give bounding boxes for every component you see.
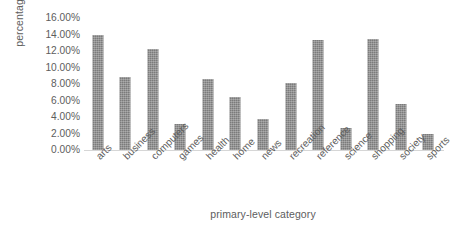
y-axis-tick-label: 0.00% [30, 145, 80, 155]
y-axis-tick-label: 16.00% [30, 13, 80, 23]
y-axis-tick-labels: 16.00%14.00%12.00%10.00%8.00%6.00%4.00%2… [30, 13, 80, 157]
y-axis-tick-label: 12.00% [30, 46, 80, 56]
bar-chart: percentage 16.00%14.00%12.00%10.00%8.00%… [0, 0, 463, 232]
bar [285, 83, 296, 150]
bar-slot [84, 18, 112, 150]
y-axis-tick-label: 10.00% [30, 63, 80, 73]
plot-area [84, 18, 442, 150]
bar-slot [194, 18, 222, 150]
bar [92, 35, 103, 150]
y-axis-tick-label: 14.00% [30, 30, 80, 40]
bar-slot [112, 18, 140, 150]
bar-slot [222, 18, 250, 150]
x-axis-tick-labels: artsbusinesscomputersgameshealthhomenews… [84, 152, 442, 208]
y-axis-tick-label: 8.00% [30, 79, 80, 89]
y-axis-tick-label: 6.00% [30, 96, 80, 106]
bar [120, 77, 131, 150]
y-axis-tick-label: 4.00% [30, 112, 80, 122]
bar [230, 97, 241, 150]
y-axis-tick-label: 2.00% [30, 129, 80, 139]
bar-slot [359, 18, 387, 150]
bar-slot [277, 18, 305, 150]
y-axis-title: percentage [13, 0, 27, 70]
bar-slot [249, 18, 277, 150]
x-axis-title: primary-level category [84, 208, 442, 220]
bar-slot [414, 18, 442, 150]
